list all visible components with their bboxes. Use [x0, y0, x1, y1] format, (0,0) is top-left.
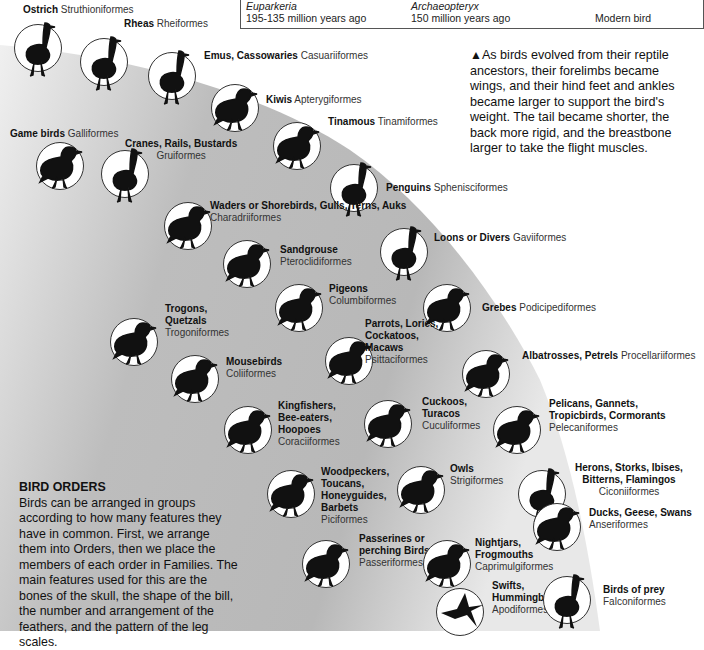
label-heron: Herons, Storks, Ibises, Bitterns, Flamin…: [564, 462, 694, 498]
label-kiwi: Kiwis Apterygiformes: [266, 94, 362, 106]
bird-circle-cuckoo: [364, 400, 412, 448]
albatross-icon: [457, 345, 515, 403]
woodpecker-icon: [262, 465, 320, 523]
tinamou-icon: [268, 117, 326, 175]
loon-icon: [375, 223, 433, 281]
evolution-note: ▲As birds evolved from their reptile anc…: [470, 48, 690, 157]
bird-circle-passerine: [302, 540, 350, 588]
duck-icon: [528, 498, 586, 556]
bird-circle-duck: [533, 503, 581, 551]
emu-icon: [143, 47, 201, 105]
bird-circle-waders: [164, 202, 212, 250]
bird-circle-owl: [397, 466, 445, 514]
label-rhea: Rheas Rheiformes: [124, 18, 208, 30]
bird-circle-mousebird: [171, 355, 219, 403]
bird-orders-intro: BIRD ORDERS Birds can be arranged in gro…: [19, 480, 239, 650]
rhea-icon: [75, 33, 133, 91]
bird-circle-emu: [148, 52, 196, 100]
bird-circle-sandgrouse: [223, 240, 271, 288]
label-mousebird: MousebirdsColiiformes: [226, 356, 296, 380]
label-emu: Emus, Cassowaries Casuariiformes: [204, 50, 368, 62]
evolution-box: Euparkeria 195-135 million years ago Arc…: [240, 0, 704, 29]
label-tinamou: Tinamous Tinamiformes: [328, 116, 438, 128]
evolution-item-archaeopteryx: Archaeopteryx 150 million years ago: [411, 0, 510, 24]
bird-circle-rhea: [80, 38, 128, 86]
bird-circle-albatross: [462, 350, 510, 398]
hummingbird-icon: [431, 583, 489, 641]
game-bird-icon: [31, 137, 89, 195]
triangle-marker-icon: ▲: [470, 48, 482, 62]
cuckoo-icon: [359, 395, 417, 453]
quetzal-icon: [105, 313, 163, 371]
label-waders: Waders or Shorebirds, Gulls, Terns, Auks…: [210, 200, 406, 224]
label-cranes: Cranes, Rails, BustardsGruiformes: [125, 138, 237, 162]
label-game-birds: Game birds Galliformes: [10, 128, 118, 140]
mousebird-icon: [166, 350, 224, 408]
evolution-item-euparkeria: Euparkeria 195-135 million years ago: [246, 0, 366, 24]
kiwi-icon: [206, 79, 264, 137]
label-ostrich: Ostrich Struthioniformes: [23, 4, 134, 16]
bird-circle-loon: [380, 228, 428, 276]
ostrich-icon: [9, 19, 67, 77]
pelican-icon: [488, 401, 546, 459]
bird-circle-nightjar: [423, 540, 471, 588]
bird-circle-kiwi: [211, 84, 259, 132]
label-loon: Loons or Divers Gaviiformes: [434, 232, 566, 244]
label-parrot: Parrots, Lories, Cockatoos, MacawsPsitta…: [365, 318, 445, 366]
label-pigeon: PigeonsColumbiformes: [329, 283, 409, 307]
label-kingfisher: Kingfishers, Bee-eaters, HoopoesCoraciif…: [278, 400, 348, 448]
label-owl: OwlsStrigiformes: [450, 463, 520, 487]
label-trogon: Trogons, QuetzalsTrogoniformes: [165, 303, 235, 339]
sandgrouse-icon: [218, 235, 276, 293]
evolution-item-modern-bird: Modern bird: [595, 12, 651, 24]
bird-circle-kingfisher: [224, 406, 272, 454]
bird-circle-bird-of-prey: [543, 576, 591, 624]
bird-circle-hummingbird: [436, 588, 484, 636]
intro-heading: BIRD ORDERS: [19, 480, 239, 496]
intro-text: Birds can be arranged in groups accordin…: [19, 496, 238, 650]
kingfisher-icon: [219, 401, 277, 459]
label-albatross: Albatrosses, Petrels Procellariiformes: [522, 350, 695, 362]
label-cuckoo: Cuckoos, TuracosCuculiformes: [422, 396, 492, 432]
bird-circle-game-birds: [36, 142, 84, 190]
bird-circle-pelican: [493, 406, 541, 454]
label-grebe: Grebes Podicipediformes: [482, 302, 596, 314]
label-bird-of-prey: Birds of preyFalconiformes: [603, 584, 683, 608]
label-sandgrouse: SandgrousePteroclidiformes: [280, 244, 360, 268]
bird-circle-trogon: [110, 318, 158, 366]
owl-icon: [392, 461, 450, 519]
pigeon-icon: [270, 279, 328, 337]
label-penguin: Penguins Sphenisciformes: [386, 182, 508, 194]
bird-circle-tinamou: [273, 122, 321, 170]
bird-circle-woodpecker: [267, 470, 315, 518]
passerine-icon: [297, 535, 355, 593]
label-duck: Ducks, Geese, SwansAnseriformes: [589, 507, 694, 531]
bird-circle-pigeon: [275, 284, 323, 332]
bird-circle-ostrich: [14, 24, 62, 72]
gull-icon: [159, 197, 217, 255]
label-pelican: Pelicans, Gannets, Tropicbirds, Cormoran…: [549, 398, 689, 434]
bird-of-prey-icon: [538, 571, 596, 629]
